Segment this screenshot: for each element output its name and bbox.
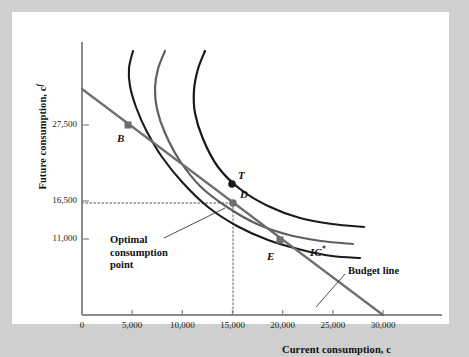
x-tick-label-5000: 5,000: [110, 320, 154, 330]
data-point-B[interactable]: [125, 122, 132, 129]
optimal-consumption-point-leader: [164, 208, 225, 238]
curve-label-ic-star-superscript: *: [322, 244, 326, 253]
optimal-consumption-point-line-3: point: [110, 259, 168, 272]
curve-label-ic-star-text: IC: [310, 246, 322, 258]
y-tick-label-27500: 27,500: [33, 119, 77, 129]
y-axis-title: Future consumption, cf: [34, 62, 48, 212]
x-tick-label-0: 0: [60, 320, 104, 330]
curve-label-ic-star: IC*: [310, 244, 325, 258]
series-indifference-curve-low: [129, 51, 360, 258]
x-tick-label-25000: 25,000: [311, 320, 355, 330]
point-label-E: E: [267, 250, 274, 262]
x-axis-title-text: Current consumption, c: [282, 344, 391, 355]
series-indifference-curve-optimal: [155, 51, 353, 244]
x-tick-label-10000: 10,000: [160, 320, 204, 330]
budget-line-label-line-1: Budget line: [348, 265, 399, 278]
optimal-consumption-point-line-1: Optimal: [110, 234, 168, 247]
budget-line-label: Budget line: [348, 265, 399, 278]
data-point-D[interactable]: [229, 199, 237, 207]
optimal-consumption-point: Optimalconsumptionpoint: [110, 234, 168, 272]
point-label-D: D: [240, 188, 248, 200]
y-tick-label-16500: 16,500: [33, 195, 77, 205]
point-label-T: T: [238, 169, 245, 181]
y-tick-label-11000: 11,000: [33, 233, 77, 243]
plot-panel: Future consumption, cf Current consumpti…: [12, 12, 449, 324]
x-axis-title: Current consumption, c: [282, 344, 391, 355]
y-axis-title-superscript: f: [34, 84, 43, 87]
point-label-B: B: [117, 132, 124, 144]
x-tick-label-30000: 30,000: [361, 320, 405, 330]
budget-line-label-leader: [316, 274, 345, 307]
data-point-T[interactable]: [228, 180, 236, 188]
y-axis-title-text: Future consumption, c: [37, 86, 48, 189]
x-tick-label-20000: 20,000: [261, 320, 305, 330]
data-point-E[interactable]: [277, 237, 284, 244]
figure-container: Future consumption, cf Current consumpti…: [0, 0, 469, 357]
x-tick-label-15000: 15,000: [211, 320, 255, 330]
optimal-consumption-point-line-2: consumption: [110, 247, 168, 260]
